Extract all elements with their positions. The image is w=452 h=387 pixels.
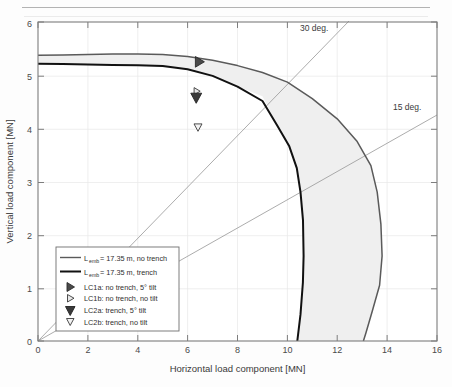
x-tick-6: 6: [185, 345, 190, 355]
x-tick-2: 2: [85, 345, 90, 355]
x-tick-12: 12: [332, 345, 342, 355]
y-tick-2: 2: [27, 231, 32, 241]
y-tick-1: 1: [27, 284, 32, 294]
x-tick-4: 4: [135, 345, 140, 355]
legend-label-no-trench-pre: L: [84, 254, 88, 263]
chart-figure: 0 2 4 6 8 10 12 14 16 0 1 2 3 4 5 6 Hori…: [0, 0, 452, 387]
annotation-30-deg: 30 deg.: [300, 23, 328, 33]
legend-label-no-trench: = 17.35 m, no trench: [100, 254, 167, 263]
legend-label-no-trench-sub: emb: [89, 258, 99, 264]
x-tick-16: 16: [432, 345, 442, 355]
x-tick-14: 14: [382, 345, 392, 355]
legend[interactable]: L emb = 17.35 m, no trench L emb = 17.35…: [56, 247, 179, 331]
annotation-15-deg: 15 deg.: [393, 102, 421, 112]
x-tick-8: 8: [235, 345, 240, 355]
y-tick-6: 6: [27, 19, 32, 29]
page-top-rule-secondary: [24, 16, 428, 17]
legend-label-trench-pre: L: [84, 268, 88, 277]
x-tick-0: 0: [35, 345, 40, 355]
legend-label-lc2b: LC2b: trench, no tilt: [84, 318, 147, 327]
legend-label-trench: = 17.35 m, trench: [100, 268, 157, 277]
x-tick-labels: 0 2 4 6 8 10 12 14 16: [35, 345, 442, 355]
legend-label-trench-sub: emb: [89, 272, 99, 278]
x-axis-title: Horizontal load component [MN]: [170, 363, 306, 374]
vh-load-envelope-plot: 0 2 4 6 8 10 12 14 16 0 1 2 3 4 5 6 Hori…: [0, 0, 452, 387]
x-tick-10: 10: [282, 345, 292, 355]
y-tick-5: 5: [27, 72, 32, 82]
y-tick-4: 4: [27, 125, 32, 135]
page-top-rule: [22, 7, 430, 8]
legend-label-lc1b: LC1b: no trench, no tilt: [84, 294, 157, 303]
y-tick-3: 3: [27, 178, 32, 188]
y-tick-labels: 0 1 2 3 4 5 6: [27, 19, 32, 347]
legend-label-lc1a: LC1a: no trench, 5° tilt: [84, 283, 156, 292]
y-tick-0: 0: [27, 337, 32, 347]
y-axis-title: Vertical load component [MN]: [4, 119, 15, 243]
legend-label-lc2a: LC2a: trench, 5° tilt: [84, 306, 146, 315]
